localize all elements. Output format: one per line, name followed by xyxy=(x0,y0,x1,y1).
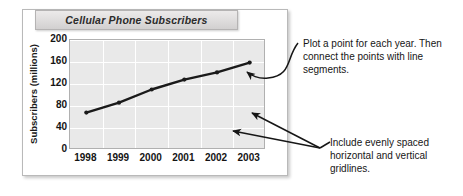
y-axis-title: Subscribers (millions) xyxy=(26,38,40,150)
annotation-plot-points: Plot a point for each year. Then connect… xyxy=(303,37,463,77)
y-axis-tick: 160 xyxy=(40,56,67,66)
x-axis-tick: 2003 xyxy=(229,152,269,164)
data-point-marker xyxy=(150,87,154,91)
data-point-marker xyxy=(248,60,252,64)
y-axis-tick: 40 xyxy=(40,122,67,132)
y-axis-tick: 200 xyxy=(40,34,67,44)
y-axis-tick: 120 xyxy=(40,78,67,88)
chart-title: Cellular Phone Subscribers xyxy=(65,14,207,26)
y-axis-tick: 80 xyxy=(40,100,67,110)
x-axis-tick-labels: 199819992000200120022003 xyxy=(57,152,277,166)
figure-root: Cellular Phone Subscribers Subscribers (… xyxy=(0,0,463,196)
chart-title-bar: Cellular Phone Subscribers xyxy=(35,10,238,30)
data-point-marker xyxy=(117,101,121,105)
line-series-svg xyxy=(70,40,265,149)
data-point-marker xyxy=(84,111,88,115)
data-point-marker xyxy=(182,78,186,82)
arrow-lead-bottom xyxy=(320,142,330,148)
data-point-marker xyxy=(215,70,219,74)
series-line xyxy=(86,63,249,113)
annotation-gridlines: Include evenly spaced horizontal and ver… xyxy=(330,136,463,176)
plot-area xyxy=(69,39,265,149)
y-axis-tick-labels: 04080120160200 xyxy=(40,34,67,154)
